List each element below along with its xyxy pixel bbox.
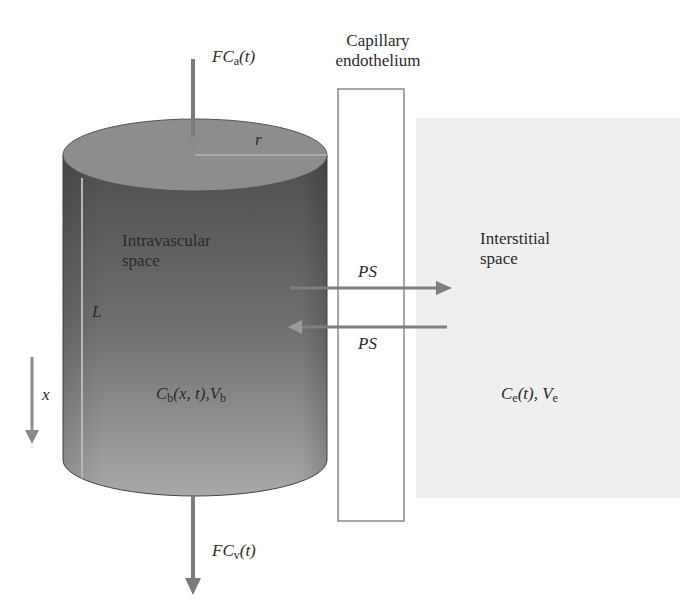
x-axis-label: x (42, 385, 50, 405)
endothelium-label: Capillary endothelium (318, 31, 438, 70)
outflow-label: FCv(t) (212, 541, 256, 563)
interstitial-region (416, 118, 680, 498)
interstitial-concentration-label: Ce(t), Ve (501, 384, 558, 406)
diagram-canvas (0, 0, 685, 606)
x-axis-arrow-icon (25, 357, 39, 444)
endothelium-membrane (338, 89, 404, 521)
radius-label: r (255, 130, 262, 150)
inflow-label: FCa(t) (212, 47, 255, 69)
intravascular-title: Intravascular space (122, 231, 211, 270)
intravascular-concentration-label: Cb(x, t),Vb (156, 384, 226, 406)
ps-influx-label: PS (358, 334, 377, 354)
outflow-arrow-icon (185, 496, 201, 595)
ps-efflux-label: PS (358, 262, 377, 282)
intravascular-cylinder (63, 119, 327, 496)
interstitial-title: Interstitial space (480, 229, 550, 268)
length-label: L (92, 302, 101, 322)
inflow-arrow-icon (185, 59, 201, 152)
